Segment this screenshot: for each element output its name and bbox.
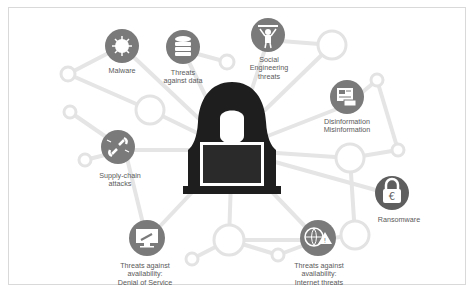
supply-chain-label: Supply-chain attacks (99, 172, 141, 189)
dos-label: Threats against availability: Denial of … (118, 262, 172, 287)
disinformation-label: Disinformation Misinformation (324, 118, 371, 135)
dos-node[interactable] (129, 220, 165, 256)
internet-threats-label: Threats against availability: Internet t… (294, 262, 344, 287)
virus-icon (112, 36, 132, 56)
ransomware-node[interactable]: € (375, 176, 409, 210)
ransomware-label: Ransomware (378, 216, 420, 224)
svg-text:!: ! (324, 237, 327, 245)
threat-network-diagram: € ! (0, 0, 473, 300)
malware-label: Malware (108, 67, 135, 75)
internet-threats-node[interactable]: ! (300, 220, 336, 256)
hacker-icon (183, 82, 281, 194)
data-threats-node[interactable] (166, 30, 200, 64)
disinformation-node[interactable] (330, 80, 364, 114)
database-icon (175, 36, 191, 56)
svg-text:€: € (389, 191, 395, 202)
malware-node[interactable] (105, 29, 139, 63)
social-engineering-label: Social Engineering threats (250, 56, 288, 81)
social-engineering-node[interactable] (251, 18, 285, 52)
data-threats-label: Threats against data (163, 69, 202, 86)
supply-chain-node[interactable] (101, 130, 135, 164)
